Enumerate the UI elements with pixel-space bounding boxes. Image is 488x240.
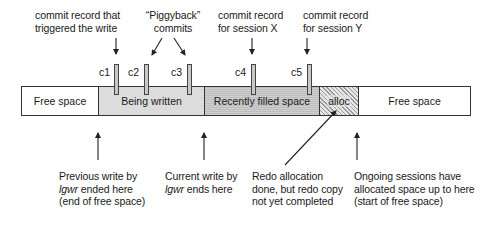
label-ongoing-sessions: Ongoing sessions have allocated space up… (354, 170, 475, 208)
label-line: Previous write by (59, 170, 145, 183)
label-text: ends here (184, 183, 233, 195)
arrow-diagonal-icon (152, 38, 162, 55)
label-line: lgwr ended here (59, 183, 145, 196)
label-italic: lgwr (165, 183, 184, 195)
label-line: done, but redo copy (252, 183, 343, 196)
label-line: allocated space up to here (354, 183, 475, 196)
label-italic: lgwr (59, 183, 78, 195)
arrow-diagonal-icon (285, 111, 336, 165)
label-line: lgwr ends here (165, 183, 238, 196)
label-line: Redo allocation (252, 170, 343, 183)
label-line: (end of free space) (59, 195, 145, 208)
label-text: ended here (78, 183, 133, 195)
label-line: not yet completed (252, 195, 343, 208)
arrow-diagonal-icon (174, 38, 185, 55)
label-line: Current write by (165, 170, 238, 183)
label-current-write: Current write by lgwr ends here (165, 170, 238, 195)
label-line: (start of free space) (354, 195, 475, 208)
label-previous-write: Previous write by lgwr ended here (end o… (59, 170, 145, 208)
label-line: Ongoing sessions have (354, 170, 475, 183)
label-redo-allocation: Redo allocation done, but redo copy not … (252, 170, 343, 208)
